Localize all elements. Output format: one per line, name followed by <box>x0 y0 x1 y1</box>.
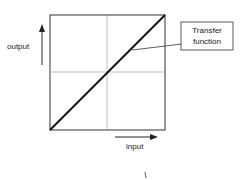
cursor-mark <box>145 172 146 178</box>
transfer-line <box>50 15 165 130</box>
callout-leader <box>132 44 182 50</box>
callout-text-1: Transfer <box>181 26 233 35</box>
output-arrow-icon <box>39 24 45 32</box>
x-axis-label: input <box>126 142 143 151</box>
y-axis-label: output <box>7 42 29 51</box>
input-arrow-icon <box>150 134 158 140</box>
callout-text-2: function <box>181 37 233 46</box>
